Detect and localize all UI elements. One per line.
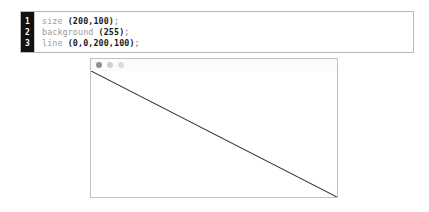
- code-function-name: background: [42, 27, 99, 37]
- code-arguments: (255): [99, 27, 125, 37]
- code-semicolon: ;: [135, 38, 140, 48]
- sketch-canvas-area: [91, 71, 337, 197]
- line-number: 3: [21, 38, 34, 49]
- zoom-dot-icon[interactable]: [118, 62, 124, 68]
- line-number: 2: [21, 27, 34, 38]
- close-dot-icon[interactable]: [96, 62, 102, 68]
- code-line[interactable]: background (255);: [42, 27, 413, 38]
- code-line[interactable]: size (200,100);: [42, 16, 413, 27]
- line-number: 1: [21, 16, 34, 27]
- line-number-gutter: 1 2 3: [21, 12, 34, 52]
- code-arguments: (0,0,200,100): [68, 38, 135, 48]
- minimize-dot-icon[interactable]: [107, 62, 113, 68]
- code-editor-panel[interactable]: 1 2 3 size (200,100); background (255); …: [20, 11, 414, 53]
- code-line[interactable]: line (0,0,200,100);: [42, 38, 413, 49]
- sketch-window[interactable]: [90, 58, 338, 198]
- code-arguments: (200,100): [68, 16, 114, 26]
- window-titlebar[interactable]: [91, 59, 337, 71]
- code-function-name: size: [42, 16, 68, 26]
- code-text-area[interactable]: size (200,100); background (255); line (…: [35, 12, 413, 52]
- code-semicolon: ;: [114, 16, 119, 26]
- sketch-canvas: [91, 71, 337, 197]
- code-semicolon: ;: [124, 27, 129, 37]
- code-function-name: line: [42, 38, 68, 48]
